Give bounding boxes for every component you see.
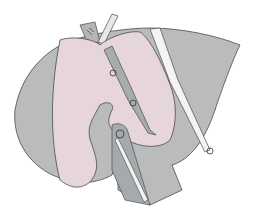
liver-drawing: [0, 0, 253, 210]
liver-illustration: [0, 0, 253, 210]
